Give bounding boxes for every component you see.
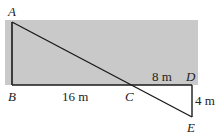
geometry-diagram: A B C D E 16 m 8 m 4 m	[0, 0, 223, 136]
measure-BC: 16 m	[62, 89, 88, 104]
measure-DE: 4 m	[195, 93, 215, 108]
point-label-E: E	[186, 120, 195, 135]
point-label-C: C	[125, 89, 134, 104]
point-label-A: A	[7, 4, 16, 19]
measure-CD: 8 m	[152, 69, 172, 84]
diagram-canvas: A B C D E 16 m 8 m 4 m	[0, 0, 223, 136]
point-label-D: D	[185, 69, 196, 84]
point-label-B: B	[8, 89, 16, 104]
